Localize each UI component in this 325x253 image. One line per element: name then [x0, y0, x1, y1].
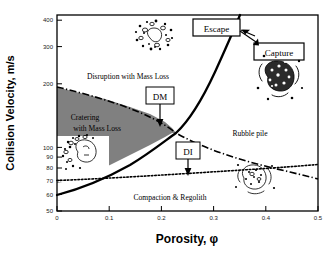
y-tick-90: 90 — [46, 154, 53, 160]
region-label-cratering-line2: with Mass Loss — [73, 124, 121, 133]
figure-svg: 50 60 70 80 90 100 200 300 400 0 0.1 0.2… — [0, 0, 325, 253]
x-axis-label: Porosity, φ — [156, 232, 219, 246]
region-label-disruption: Disruption with Mass Loss — [87, 72, 169, 81]
dm-label: DM — [153, 92, 168, 102]
x-tick-05: 0.5 — [314, 215, 323, 221]
sketch-inset-background — [57, 136, 109, 182]
y-tick-80: 80 — [46, 165, 53, 171]
y-axis-label: Collision Velocity, m/s — [4, 55, 16, 170]
y-tick-60: 60 — [46, 192, 53, 198]
y-tick-300: 300 — [43, 44, 54, 50]
y-tick-70: 70 — [46, 178, 53, 184]
region-label-compaction: Compaction & Regolith — [134, 193, 207, 202]
y-tick-100: 100 — [43, 145, 54, 151]
x-tick-04: 0.4 — [262, 215, 271, 221]
x-tick-02: 0.2 — [157, 215, 166, 221]
di-label: DI — [183, 147, 193, 157]
y-tick-400: 400 — [43, 17, 54, 23]
collision-regime-figure: 50 60 70 80 90 100 200 300 400 0 0.1 0.2… — [0, 0, 325, 253]
region-label-cratering-line1: Cratering — [71, 113, 100, 122]
y-tick-200: 200 — [43, 81, 54, 87]
capture-label: Capture — [265, 48, 294, 58]
escape-label: Escape — [204, 24, 229, 34]
y-tick-50: 50 — [46, 208, 53, 214]
region-label-rubble-pile: Rubble pile — [232, 129, 268, 138]
x-tick-03: 0.3 — [209, 215, 218, 221]
x-tick-01: 0.1 — [105, 215, 114, 221]
